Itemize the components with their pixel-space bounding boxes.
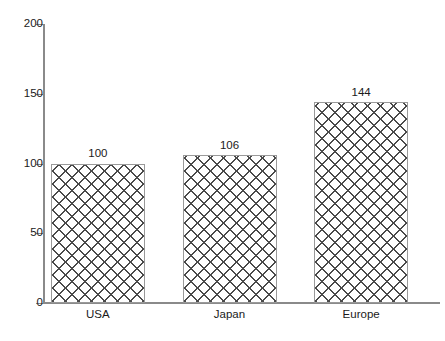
y-axis-tick-label: 50 (10, 227, 43, 239)
bar-chart-figure: 200150100500 100106144 USAJapanEurope (0, 0, 445, 341)
bar-group: 100 (51, 24, 145, 303)
y-axis-tick-label: 150 (10, 88, 43, 100)
y-axis-tick-label: 0 (10, 297, 43, 309)
bar-group: 106 (183, 24, 277, 303)
bar (314, 102, 408, 303)
bar-group: 144 (314, 24, 408, 303)
bar (51, 164, 145, 304)
y-axis-tick-label: 100 (10, 158, 43, 170)
bar-value-label: 106 (183, 140, 277, 152)
x-axis-category-label: Japan (183, 308, 277, 320)
bar-value-label: 100 (51, 148, 145, 160)
x-axis-category-label: Europe (314, 308, 408, 320)
bar-value-label: 144 (314, 87, 408, 99)
bar (183, 155, 277, 303)
y-axis-tick-label: 200 (10, 18, 43, 30)
x-axis-category-label: USA (51, 308, 145, 320)
plot-area: 100106144 (45, 24, 440, 303)
